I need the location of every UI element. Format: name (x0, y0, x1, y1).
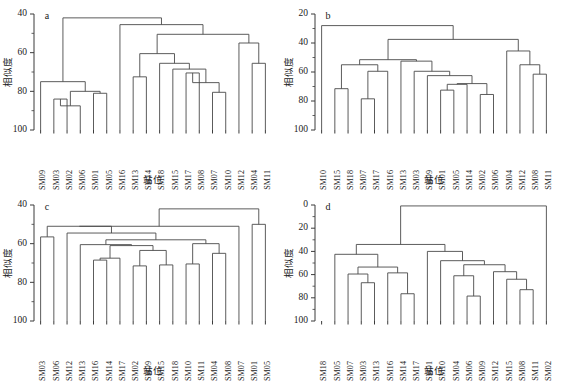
y-axis-title: 相似度 (283, 248, 294, 278)
dendrogram-links (322, 26, 547, 130)
y-tick-label: 0 (303, 199, 308, 209)
dendrogram-link (464, 265, 505, 276)
dendrogram-link (480, 94, 493, 130)
dendrogram-link (454, 276, 474, 321)
dendrogram-link (335, 89, 348, 130)
x-tick-label: SM03 (38, 361, 47, 381)
x-tick-label: SM15 (171, 170, 180, 190)
y-tick-label: 40 (299, 37, 309, 47)
y-tick-label: 80 (299, 292, 309, 302)
dendrogram-link (239, 43, 259, 130)
dendrogram-link (507, 51, 530, 130)
panel-tag-a: a (45, 10, 50, 21)
dendrogram-link (252, 63, 265, 130)
x-tick-label: SM02 (478, 170, 487, 190)
y-axis-title: 相似度 (2, 57, 13, 87)
dendrogram-link (252, 224, 265, 321)
x-tick-label: SM17 (412, 361, 421, 381)
dendrogram-link (388, 273, 408, 321)
dendrogram-link (120, 25, 203, 130)
y-tick-label: 40 (18, 199, 28, 209)
x-tick-label: SM10 (319, 170, 328, 190)
dendrogram-link (41, 237, 54, 321)
y-tick-label: 100 (13, 315, 28, 325)
dendrogram-link (173, 69, 206, 130)
x-tick-label: SM04 (505, 170, 514, 190)
x-tick-label: SM15 (505, 361, 514, 381)
dendrogram-link (47, 226, 111, 237)
dendrogram-link (467, 296, 480, 321)
x-tick-label: SM07 (210, 170, 219, 190)
dendrogram-link (401, 294, 414, 321)
x-tick-label: SM03 (52, 170, 61, 190)
x-tick-label: SM05 (263, 361, 272, 381)
x-tick-label: SM09 (478, 361, 487, 381)
x-tick-label: SM12 (491, 361, 500, 381)
x-axis-title: 站位 (143, 174, 163, 185)
y-tick-label: 100 (294, 124, 309, 134)
dendrogram-link (356, 244, 445, 254)
dendrogram-link (133, 77, 146, 130)
dendrogram-link (388, 39, 518, 59)
y-tick-label: 60 (299, 269, 309, 279)
dendrogram-link (520, 290, 533, 321)
x-tick-label: SM07 (346, 361, 355, 381)
y-tick-label: 80 (18, 86, 28, 96)
dendrogram-link (157, 34, 249, 53)
x-tick-label: SM18 (346, 170, 355, 190)
dendrogram-link (79, 226, 239, 321)
x-axis-title: 站位 (143, 365, 163, 376)
x-tick-label: SM11 (263, 170, 272, 190)
x-tick-label: SM08 (531, 170, 540, 190)
x-tick-label: SM01 (91, 170, 100, 190)
x-tick-label: SM16 (386, 170, 395, 190)
dendrogram-link (94, 260, 107, 321)
x-tick-label: SM07 (359, 170, 368, 190)
x-tick-label: SM04 (250, 170, 259, 190)
dendrogram-link (140, 54, 175, 77)
x-tick-label: SM18 (171, 361, 180, 381)
dendrogram-link (213, 253, 226, 321)
x-tick-label: SM04 (452, 361, 461, 381)
x-tick-label: SM16 (91, 361, 100, 381)
x-tick-label: SM06 (465, 361, 474, 381)
x-tick-label: SM01 (250, 361, 259, 381)
x-tick-label: SM10 (224, 170, 233, 190)
x-tick-label: SM12 (65, 361, 74, 381)
x-tick-label: SM13 (78, 361, 87, 381)
x-tick-label: SM18 (319, 361, 328, 381)
y-axis-title: 相似度 (283, 57, 294, 87)
dendrogram-link (159, 209, 259, 226)
panel-tag-b: b (326, 10, 331, 21)
dendrogram-link (533, 74, 546, 130)
x-tick-label: SM16 (118, 170, 127, 190)
x-tick-label: SM16 (386, 361, 395, 381)
dendrogram-link (348, 274, 368, 321)
x-tick-label: SM14 (105, 361, 114, 381)
dendrogram-link (186, 264, 199, 321)
dendrogram-link (213, 92, 226, 130)
y-axis-title: 相似度 (2, 248, 13, 278)
panel-tag-d: d (326, 201, 331, 212)
dendrogram-panel-c: 406080100相似度cSM03SM06SM12SM13SM16SM14SM1… (0, 191, 280, 381)
dendrogram-link (160, 265, 173, 321)
y-tick-label: 20 (299, 8, 309, 18)
x-tick-label: SM15 (333, 170, 342, 190)
dendrogram-panel-d: 020406080100相似度dSM18SM05SM07SM03SM13SM16… (281, 191, 561, 381)
y-tick-label: 80 (299, 95, 309, 105)
dendrogram-link (100, 258, 120, 321)
x-tick-label: SM04 (210, 361, 219, 381)
dendrogram-link (441, 261, 485, 321)
x-tick-label: SM17 (118, 361, 127, 381)
x-tick-label: SM17 (184, 170, 193, 190)
y-tick-label: 100 (294, 315, 309, 325)
dendrogram-link (368, 71, 388, 130)
dendrogram-link (160, 63, 190, 130)
dendrogram-link (401, 206, 547, 321)
x-tick-label: SM13 (372, 361, 381, 381)
dendrogram-link (193, 244, 219, 264)
x-tick-label: SM14 (399, 361, 408, 381)
dendrogram-link (106, 240, 206, 245)
dendrogram-link (457, 84, 487, 95)
dendrogram-panel-b: 20406080100相似度bSM10SM15SM18SM07SM17SM16S… (281, 0, 561, 190)
